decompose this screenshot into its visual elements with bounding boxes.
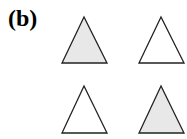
triangle-bottom-left (62, 86, 107, 133)
triangle-grid (0, 0, 187, 139)
triangle-top-right (139, 17, 184, 63)
triangle-top-left (62, 17, 107, 63)
triangle-bottom-right (139, 86, 184, 133)
